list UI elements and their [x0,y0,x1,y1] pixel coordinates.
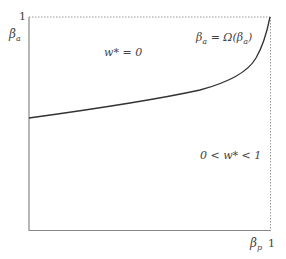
x-axis-label: βp [250,236,262,252]
y-axis-label: βa [9,27,21,43]
y-axis-tick-1: 1 [19,10,26,23]
upper-region-label: w* = 0 [104,46,142,59]
curve-label: βa = Ω(βa) [196,31,252,46]
x-axis-tick-1: 1 [268,237,275,250]
lower-region-label: 0 < w* < 1 [200,149,261,162]
